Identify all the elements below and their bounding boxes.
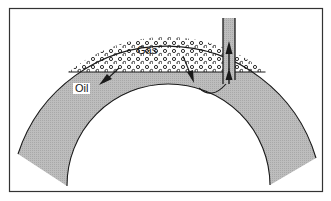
gas-label: Gas (137, 45, 157, 56)
oil-label: Oil (73, 83, 90, 94)
gas-cap-dots (69, 37, 266, 72)
anticline-diagram (0, 0, 331, 201)
